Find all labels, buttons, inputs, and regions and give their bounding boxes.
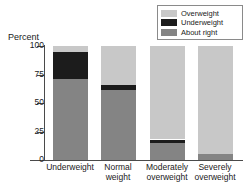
bar-segment-underweight — [101, 85, 136, 91]
x-label-line: overweight — [185, 173, 245, 183]
x-label-severely-overweight: Severelyoverweight — [185, 163, 245, 182]
y-tick-label-75: 75 — [10, 70, 44, 78]
bar-segment-about-right — [150, 143, 185, 160]
bar-normal-weight — [101, 46, 136, 160]
plot-area — [44, 46, 243, 160]
bar-segment-about-right — [53, 79, 88, 160]
legend-swatch-underweight — [161, 19, 177, 26]
bar-segment-underweight — [150, 140, 185, 143]
bar-segment-overweight — [101, 46, 136, 85]
y-tick-75: 75 — [0, 75, 44, 76]
legend-label-about-right: About right — [181, 28, 217, 37]
legend-label-overweight: Overweight — [181, 9, 219, 18]
x-axis-line — [30, 160, 243, 161]
legend-item-underweight: Underweight — [161, 18, 239, 27]
bar-segment-overweight — [198, 46, 233, 154]
legend-item-overweight: Overweight — [161, 9, 239, 18]
bar-moderately-overweight — [150, 46, 185, 160]
bar-severely-overweight — [198, 46, 233, 160]
bar-segment-overweight — [150, 46, 185, 139]
bar-segment-about-right — [101, 90, 136, 160]
y-tick-25: 25 — [0, 132, 44, 133]
y-tick-100: 100 — [0, 46, 44, 47]
legend-label-underweight: Underweight — [181, 18, 223, 27]
y-tick-label-0: 0 — [10, 155, 44, 163]
bar-segment-overweight — [53, 46, 88, 52]
legend-swatch-about-right — [161, 29, 177, 36]
chart-legend: Overweight Underweight About right — [157, 5, 243, 40]
bar-underweight — [53, 46, 88, 160]
legend-item-about-right: About right — [161, 28, 239, 37]
y-tick-label-100: 100 — [10, 41, 44, 49]
bar-segment-about-right — [198, 154, 233, 160]
legend-swatch-overweight — [161, 10, 177, 17]
y-tick-0: 0 — [0, 160, 44, 161]
bar-segment-underweight — [53, 52, 88, 79]
y-tick-label-25: 25 — [10, 127, 44, 135]
y-tick-label-50: 50 — [10, 98, 44, 106]
stacked-bar-chart: Overweight Underweight About right Perce… — [0, 0, 249, 191]
y-tick-50: 50 — [0, 103, 44, 104]
